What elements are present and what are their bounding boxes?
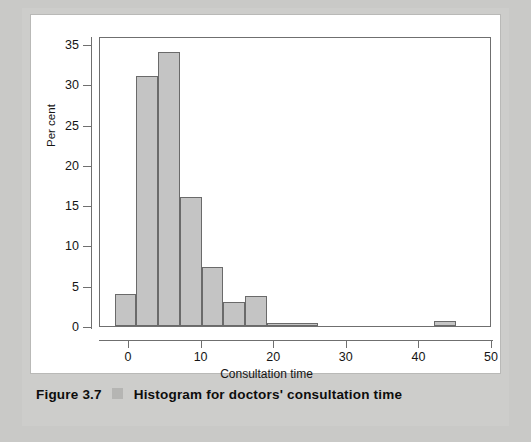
x-axis-tick-label: 30 (326, 351, 366, 364)
plot-frame (99, 37, 491, 327)
y-axis-tick-label: 0 (49, 321, 79, 334)
histogram-bar (158, 52, 180, 326)
histogram-bar (180, 197, 202, 326)
histogram-bar (202, 267, 224, 326)
chart-card: Per cent 05101520253035 01020304050 Cons… (30, 14, 501, 374)
x-axis-tick (418, 340, 419, 348)
figure-caption-text: Histogram for doctors' consultation time (134, 387, 402, 402)
x-axis-tick-label: 50 (471, 351, 511, 364)
figure-block: Per cent 05101520253035 01020304050 Cons… (22, 8, 509, 426)
x-axis-title: Consultation time (31, 367, 502, 381)
y-axis-tick-label: 35 (49, 39, 79, 52)
x-axis-line (99, 340, 493, 341)
x-axis-tick (128, 340, 129, 348)
y-axis-tick-label: 5 (49, 281, 79, 294)
x-axis-tick (201, 340, 202, 348)
y-axis-tick-label: 25 (49, 120, 79, 133)
x-axis-tick-label: 10 (181, 351, 221, 364)
x-axis-tick-label: 0 (108, 351, 148, 364)
y-axis-tick (83, 85, 91, 86)
x-axis-tick (491, 340, 492, 348)
histogram-bar (223, 302, 245, 326)
x-axis-tick-label: 40 (398, 351, 438, 364)
y-axis-tick (83, 287, 91, 288)
y-axis-tick (83, 327, 91, 328)
histogram-bar (434, 321, 456, 326)
square-swatch-icon (112, 388, 123, 399)
histogram-bar (245, 296, 267, 326)
x-axis-tick (273, 340, 274, 348)
x-axis-tick (346, 340, 347, 348)
histogram-bar (267, 323, 318, 326)
histogram-bar (136, 76, 158, 326)
y-axis-tick (83, 45, 91, 46)
figure-caption-label: Figure 3.7 (36, 387, 102, 402)
histogram-bar (115, 294, 137, 326)
plot-area: Per cent 05101520253035 01020304050 Cons… (31, 15, 502, 375)
y-axis-tick-label: 20 (49, 160, 79, 173)
y-axis-tick (83, 246, 91, 247)
x-axis-tick-label: 20 (253, 351, 293, 364)
y-axis-tick (83, 126, 91, 127)
y-axis-tick-label: 10 (49, 240, 79, 253)
y-axis-tick (83, 206, 91, 207)
figure-caption: Figure 3.7 Histogram for doctors' consul… (36, 386, 496, 402)
y-axis-tick-label: 30 (49, 79, 79, 92)
y-axis-line (91, 37, 92, 329)
bars-layer (100, 38, 490, 326)
y-axis-tick-label: 15 (49, 200, 79, 213)
y-axis-tick (83, 166, 91, 167)
